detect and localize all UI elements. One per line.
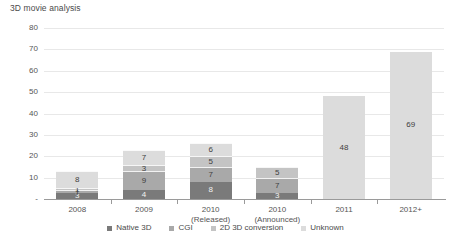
bar-segment[interactable]: 5 <box>256 167 298 178</box>
bar-segment[interactable]: 8 <box>56 171 98 188</box>
y-axis-tick-label: 60 <box>12 67 38 75</box>
y-axis-tick-label: 10 <box>12 174 38 182</box>
x-axis-tick-label: 2012+ <box>377 205 444 215</box>
bar-segment[interactable]: 69 <box>390 52 432 199</box>
x-axis-tick-label-line: (Released) <box>177 215 244 225</box>
bar-segment-value: 8 <box>75 176 79 184</box>
chart-legend: Native 3DCGI2D 3D conversionUnknown <box>0 224 451 232</box>
gridline <box>44 114 444 115</box>
bar-stack[interactable]: 4937 <box>123 150 165 199</box>
bar-segment[interactable]: 4 <box>123 190 165 199</box>
bar-segment-value: 7 <box>142 154 146 162</box>
x-axis-tick <box>311 199 312 204</box>
bar-segment[interactable]: 3 <box>256 193 298 199</box>
legend-item-label: Native 3D <box>116 224 151 232</box>
bar-segment-value: 5 <box>275 169 279 177</box>
bar-segment[interactable]: 5 <box>190 156 232 167</box>
x-axis-tick-label-line: 2008 <box>44 205 111 215</box>
x-axis-tick <box>177 199 178 204</box>
legend-swatch-icon <box>211 226 216 231</box>
bar-segment-value: 4 <box>142 191 146 199</box>
y-axis-tick-label: 80 <box>12 24 38 32</box>
bar-segment-value: 8 <box>208 186 212 194</box>
y-axis-tick-label: 30 <box>12 131 38 139</box>
y-axis-tick-label: 70 <box>12 45 38 53</box>
legend-item[interactable]: 2D 3D conversion <box>211 224 284 232</box>
chart-container: 3D movie analysis -1020304050607080 Nati… <box>0 0 451 239</box>
legend-item[interactable]: Native 3D <box>107 224 151 232</box>
bar-segment[interactable]: 1 <box>56 188 98 190</box>
x-axis-tick <box>111 199 112 204</box>
bar-segment[interactable]: 3 <box>123 165 165 171</box>
x-axis-tick-label-line: (Announced) <box>244 215 311 225</box>
bar-segment-value: 7 <box>275 182 279 190</box>
bar-segment[interactable]: 8 <box>190 182 232 199</box>
bar-stack[interactable]: 69 <box>390 52 432 199</box>
x-axis-line <box>44 199 446 200</box>
bar-segment-value: 7 <box>208 171 212 179</box>
x-axis-tick-label: 2011 <box>311 205 378 215</box>
y-axis-tick-label: 20 <box>12 152 38 160</box>
gridline <box>44 156 444 157</box>
legend-item-label: Unknown <box>310 224 343 232</box>
bar-segment-value: 3 <box>142 165 146 173</box>
bar-segment[interactable]: 7 <box>256 178 298 193</box>
bar-stack[interactable]: 375 <box>256 167 298 199</box>
x-axis-tick-label: 2010(Announced) <box>244 205 311 225</box>
x-axis-tick-label-line: 2009 <box>111 205 178 215</box>
gridline <box>44 92 444 93</box>
bar-stack[interactable]: 48 <box>323 96 365 199</box>
x-axis-tick-label-line: 2010 <box>177 205 244 215</box>
bar-segment-value: 6 <box>208 146 212 154</box>
bar-segment-value: 69 <box>406 121 415 129</box>
legend-item[interactable]: CGI <box>169 224 192 232</box>
bar-stack[interactable]: 3118 <box>56 171 98 199</box>
x-axis-tick-label-line: 2010 <box>244 205 311 215</box>
gridline <box>44 178 444 179</box>
gridline <box>44 28 444 29</box>
legend-item-label: CGI <box>178 224 192 232</box>
bar-segment-value: 9 <box>142 177 146 185</box>
legend-swatch-icon <box>107 226 112 231</box>
legend-item-label: 2D 3D conversion <box>220 224 284 232</box>
x-axis-tick-label: 2009 <box>111 205 178 215</box>
bar-segment[interactable]: 7 <box>123 150 165 165</box>
legend-item[interactable]: Unknown <box>301 224 343 232</box>
bar-segment[interactable]: 7 <box>190 167 232 182</box>
plot-area <box>44 22 444 203</box>
x-axis-tick-label-line: 2012+ <box>377 205 444 215</box>
bar-stack[interactable]: 8756 <box>190 143 232 199</box>
gridline <box>44 49 444 50</box>
y-axis-tick-label: - <box>12 195 38 203</box>
x-axis-tick <box>244 199 245 204</box>
bar-segment-value: 5 <box>208 158 212 166</box>
bar-segment-value: 48 <box>340 144 349 152</box>
bar-segment-value: 3 <box>275 192 279 200</box>
bar-segment[interactable]: 9 <box>123 171 165 190</box>
legend-swatch-icon <box>301 226 306 231</box>
x-axis-tick <box>377 199 378 204</box>
y-axis-tick-label: 50 <box>12 88 38 96</box>
gridline <box>44 71 444 72</box>
x-axis-tick-label-line: 2011 <box>311 205 378 215</box>
y-axis: -1020304050607080 <box>4 0 38 239</box>
x-axis-tick-label: 2008 <box>44 205 111 215</box>
x-axis-tick-label: 2010(Released) <box>177 205 244 225</box>
legend-swatch-icon <box>169 226 174 231</box>
bar-segment[interactable]: 48 <box>323 96 365 199</box>
y-axis-tick-label: 40 <box>12 110 38 118</box>
gridline <box>44 135 444 136</box>
bar-segment[interactable]: 6 <box>190 143 232 156</box>
